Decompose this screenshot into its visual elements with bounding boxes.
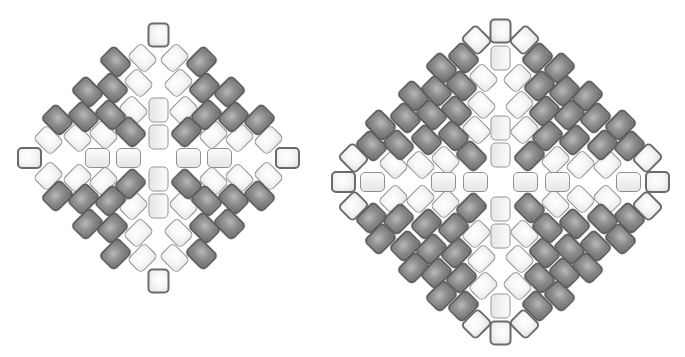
edge-bead — [645, 171, 670, 193]
large-diamond-motif — [0, 0, 685, 357]
axis-bead — [616, 172, 641, 192]
axis-bead — [360, 172, 385, 192]
axis-bead — [431, 172, 456, 192]
edge-bead — [331, 171, 356, 193]
axis-bead — [490, 197, 510, 222]
axis-bead — [490, 116, 510, 141]
axis-bead — [490, 294, 510, 319]
axis-bead — [490, 224, 510, 249]
axis-bead — [490, 46, 510, 71]
bead-pattern-canvas — [0, 0, 685, 357]
axis-bead — [490, 143, 510, 168]
axis-bead — [545, 172, 570, 192]
axis-bead — [463, 172, 488, 192]
edge-bead — [489, 321, 511, 346]
edge-bead — [489, 19, 511, 44]
axis-bead — [513, 172, 538, 192]
